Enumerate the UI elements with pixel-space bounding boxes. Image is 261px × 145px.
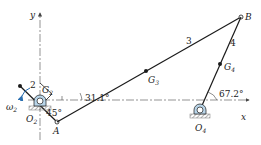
link-2-end-dot [18,84,22,88]
angle-link2-label: 45° [46,108,62,118]
x-axis-label: x [241,112,246,122]
g4-dot [218,62,222,66]
g2-label: G2 [42,85,53,96]
g3-dot [144,69,148,73]
angle-link3-arc [80,93,82,100]
link-3-label: 3 [186,36,192,46]
link-3 [57,17,241,122]
o4-label: O4 [195,123,206,134]
link-2-label: 2 [30,80,36,90]
angle-link4-label: 67.2° [219,89,244,99]
four-bar-linkage-diagram: y x 2 G2 ω2 O2 45° A 3 G3 31.1° B 4 G [0,0,261,145]
g4-label: G4 [224,62,235,73]
o4-pivot [190,104,210,118]
g3-label: G3 [148,75,159,86]
o2-label: O2 [26,114,37,125]
link-4-label: 4 [230,38,236,48]
angle-link4-arc [208,92,217,100]
b-label: B [244,12,252,22]
omega2-label: ω2 [6,102,17,113]
a-label: A [52,126,60,136]
angle-link3-label: 31.1° [85,93,110,103]
y-axis-label: y [29,10,36,20]
